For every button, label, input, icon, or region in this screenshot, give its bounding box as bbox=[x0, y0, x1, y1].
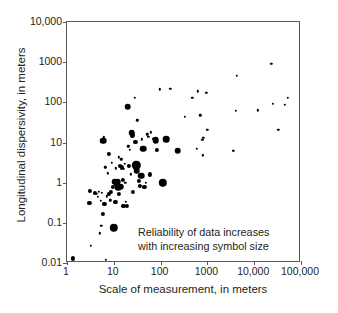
y-axis-tick bbox=[63, 183, 67, 184]
y-axis-tick-label: 1 bbox=[56, 176, 62, 187]
scatter-point bbox=[144, 181, 146, 183]
scatter-point bbox=[117, 192, 121, 196]
scatter-point bbox=[115, 167, 117, 169]
scatter-point bbox=[88, 189, 92, 193]
scatter-point bbox=[131, 189, 135, 193]
y-axis-tick-label: 0.01 bbox=[42, 257, 62, 268]
scatter-point bbox=[163, 136, 170, 143]
scatter-point bbox=[272, 103, 274, 105]
reliability-annotation: Reliability of data increases with incre… bbox=[138, 225, 269, 253]
x-axis-tick-label: 10,000 bbox=[237, 266, 269, 277]
scatter-point bbox=[99, 200, 101, 202]
scatter-point bbox=[110, 224, 118, 232]
scatter-point bbox=[127, 145, 129, 147]
scatter-point bbox=[113, 200, 117, 204]
y-axis-tick bbox=[63, 22, 67, 23]
scatter-point bbox=[141, 138, 143, 140]
y-axis-tick-labels: 0.010.1110100100010,000 bbox=[0, 21, 62, 262]
scatter-point bbox=[100, 138, 107, 145]
scatter-point bbox=[104, 166, 106, 168]
y-axis-tick bbox=[63, 102, 67, 103]
scatter-point bbox=[158, 88, 160, 90]
scatter-point bbox=[125, 204, 129, 208]
scatter-point bbox=[205, 91, 207, 93]
scatter-point bbox=[287, 97, 289, 99]
y-axis-tick-label: 10 bbox=[50, 136, 62, 147]
scatter-point bbox=[101, 192, 103, 194]
y-axis-tick bbox=[63, 62, 67, 63]
scatter-point bbox=[105, 259, 107, 261]
scatter-point bbox=[202, 154, 204, 156]
scatter-point bbox=[71, 256, 75, 260]
scatter-point bbox=[99, 232, 101, 234]
x-axis-tick-label: 100,000 bbox=[281, 266, 319, 277]
y-axis-tick-label: 1000 bbox=[39, 56, 62, 67]
scatter-point bbox=[169, 87, 171, 89]
x-axis-title: Scale of measurement, in meters bbox=[66, 283, 300, 295]
scatter-point bbox=[130, 133, 134, 137]
y-axis-tick bbox=[63, 223, 67, 224]
scatter-point bbox=[234, 109, 236, 111]
scatter-point bbox=[136, 119, 138, 121]
scatter-point bbox=[97, 196, 99, 198]
scatter-point bbox=[142, 184, 146, 188]
scatter-point bbox=[109, 190, 113, 194]
scatter-point bbox=[133, 140, 137, 144]
y-axis-tick-label: 0.1 bbox=[47, 217, 62, 228]
scatter-point bbox=[107, 152, 111, 156]
scatter-point bbox=[140, 145, 147, 152]
x-axis-tick-labels: 110100100010,000100,000 bbox=[66, 266, 300, 280]
x-axis-tick-label: 100 bbox=[151, 266, 169, 277]
y-axis-title: Longitudinal dispersivity, in meters bbox=[15, 10, 27, 260]
scatter-point bbox=[98, 190, 100, 192]
scatter-point bbox=[134, 97, 136, 99]
scatter-point bbox=[206, 128, 208, 130]
scatter-point bbox=[232, 150, 234, 152]
scatter-point bbox=[152, 137, 159, 144]
scatter-point bbox=[111, 162, 113, 164]
scatter-point bbox=[184, 115, 186, 117]
scatter-point bbox=[174, 148, 181, 155]
scatter-point bbox=[155, 148, 159, 152]
scatter-point bbox=[196, 148, 198, 150]
figure: 0.010.1110100100010,000 Reliability of d… bbox=[0, 0, 338, 313]
scatter-point bbox=[125, 103, 132, 110]
scatter-point bbox=[236, 75, 238, 77]
annotation-line-1: Reliability of data increases bbox=[138, 225, 269, 239]
scatter-point bbox=[101, 211, 105, 215]
scatter-point bbox=[89, 244, 91, 246]
scatter-point bbox=[125, 201, 127, 203]
scatter-point bbox=[158, 178, 166, 186]
y-axis-tick-label: 10,000 bbox=[30, 16, 62, 27]
scatter-point bbox=[124, 181, 126, 183]
scatter-point bbox=[199, 114, 201, 116]
scatter-point bbox=[87, 201, 91, 205]
x-axis-tick-label: 10 bbox=[107, 266, 119, 277]
scatter-point bbox=[196, 90, 198, 92]
scatter-point bbox=[129, 149, 131, 151]
scatter-point bbox=[102, 202, 106, 206]
scatter-point bbox=[106, 172, 108, 174]
plot-area: Reliability of data increases with incre… bbox=[66, 21, 300, 262]
y-axis-tick-label: 100 bbox=[44, 96, 62, 107]
annotation-line-2: with increasing symbol size bbox=[138, 239, 269, 253]
scatter-point bbox=[123, 168, 125, 170]
y-axis-tick bbox=[63, 143, 67, 144]
scatter-point bbox=[270, 63, 272, 65]
scatter-point bbox=[130, 173, 132, 175]
scatter-point bbox=[109, 199, 111, 201]
scatter-point bbox=[147, 172, 151, 176]
scatter-point bbox=[257, 109, 259, 111]
scatter-point bbox=[150, 131, 152, 133]
scatter-point bbox=[100, 224, 102, 226]
x-axis-tick-label: 1 bbox=[63, 266, 69, 277]
scatter-point bbox=[117, 183, 124, 190]
scatter-point bbox=[127, 164, 131, 168]
scatter-point bbox=[123, 163, 125, 165]
x-axis-tick-label: 1000 bbox=[195, 266, 218, 277]
scatter-point bbox=[147, 135, 149, 137]
scatter-point bbox=[284, 103, 286, 105]
scatter-point bbox=[120, 158, 122, 160]
scatter-point bbox=[191, 97, 193, 99]
scatter-point bbox=[138, 172, 145, 179]
